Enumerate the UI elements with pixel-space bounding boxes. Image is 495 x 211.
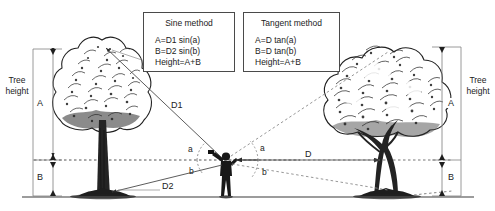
right-segment-a-label: A — [447, 98, 455, 108]
right-tree-height-label: Tree height — [463, 75, 493, 96]
tangent-method-box: Tangent method A=D tan(a) B=D tan(b) Hei… — [243, 12, 340, 72]
conifer-tree-icon — [53, 37, 152, 199]
distance-d1-label: D1 — [171, 100, 183, 110]
angle-arc-left-upper — [197, 142, 206, 160]
sine-method-equations: A=D1 sin(a) B=D2 sin(b) Height=A+B — [155, 35, 201, 68]
broadleaf-tree-icon — [324, 46, 452, 199]
tangent-method-title: Tangent method — [244, 18, 339, 28]
distance-d-label: D — [305, 149, 312, 159]
angle-right-lower-label: b — [262, 167, 267, 177]
person-with-clinometer-icon — [208, 150, 238, 198]
angle-arc-right-upper — [250, 141, 258, 160]
left-segment-a-label: A — [36, 98, 44, 108]
angle-left-upper-label: a — [188, 144, 193, 154]
sine-method-box: Sine method A=D1 sin(a) B=D2 sin(b) Heig… — [143, 12, 235, 72]
sine-method-title: Sine method — [144, 18, 234, 28]
tangent-method-equations: A=D tan(a) B=D tan(b) Height=A+B — [255, 35, 301, 68]
angle-arc-left-lower — [197, 160, 203, 174]
angle-left-lower-label: b — [189, 166, 194, 176]
left-segment-b-label: B — [36, 172, 44, 182]
right-segment-b-label: B — [447, 172, 455, 182]
distance-d2-label: D2 — [162, 181, 174, 191]
tree-height-diagram: Sine method A=D1 sin(a) B=D2 sin(b) Heig… — [0, 0, 495, 211]
left-tree-height-label: Tree height — [2, 75, 32, 96]
angle-right-upper-label: a — [260, 143, 265, 153]
sight-line-right-lower — [232, 164, 388, 190]
